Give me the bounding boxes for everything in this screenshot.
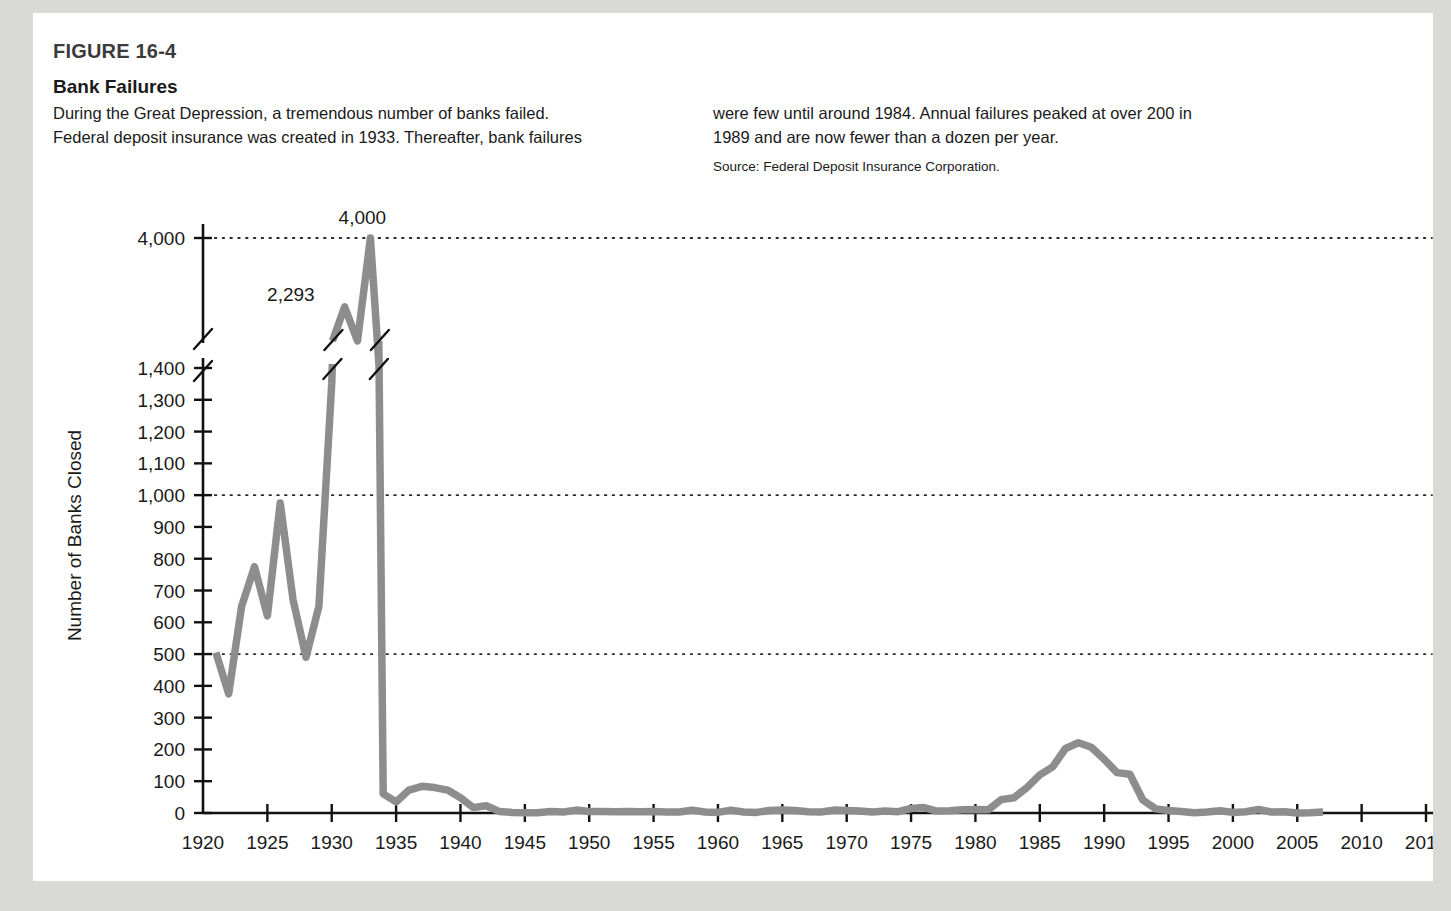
- y-axis-tick-label: 1,300: [137, 390, 185, 411]
- caption-column-right: were few until around 1984. Annual failu…: [713, 101, 1413, 176]
- figure-source: Source: Federal Deposit Insurance Corpor…: [713, 158, 1413, 176]
- figure-caption: During the Great Depression, a tremendou…: [53, 101, 1423, 176]
- figure-number: FIGURE 16-4: [53, 40, 1413, 63]
- x-axis-tick-label: 2010: [1340, 832, 1382, 853]
- y-axis-tick-label: 200: [153, 739, 185, 760]
- x-axis-tick-label: 1950: [568, 832, 610, 853]
- data-line: [216, 364, 333, 694]
- y-axis-tick-label: 4,000: [137, 228, 185, 249]
- caption-left-line-2: Federal deposit insurance was created in…: [53, 125, 713, 149]
- bank-failures-chart: 01002003004005006007008009001,0001,1001,…: [33, 198, 1433, 881]
- figure-panel: FIGURE 16-4 Bank Failures During the Gre…: [33, 13, 1433, 881]
- x-axis-tick-label: 1945: [504, 832, 546, 853]
- data-line: [379, 341, 1323, 813]
- x-axis-tick-label: 1970: [826, 832, 868, 853]
- x-axis-tick-label: 1965: [761, 832, 803, 853]
- y-axis-title: Number of Banks Closed: [64, 430, 85, 641]
- gridlines-group: [207, 238, 1432, 654]
- y-axis-tick-label: 500: [153, 644, 185, 665]
- y-axis-tick-label: 400: [153, 676, 185, 697]
- data-point-annotation: 4,000: [339, 207, 387, 228]
- x-axis-tick-label: 2015: [1405, 832, 1433, 853]
- x-axis-tick-label: 1925: [246, 832, 288, 853]
- x-axis-tick-label: 2000: [1212, 832, 1254, 853]
- figure-header: FIGURE 16-4 Bank Failures: [53, 40, 1413, 98]
- x-axis-tick-label: 1980: [954, 832, 996, 853]
- y-axis-tick-label: 900: [153, 517, 185, 538]
- y-axis-tick-label: 1,100: [137, 453, 185, 474]
- caption-right-line-2: 1989 and are now fewer than a dozen per …: [713, 125, 1413, 149]
- x-axis-tick-label: 1960: [697, 832, 739, 853]
- y-axis-tick-label: 1,000: [137, 485, 185, 506]
- x-axis-tick-label: 1955: [632, 832, 674, 853]
- y-axis-tick-label: 0: [174, 803, 185, 824]
- y-axis-tick-label: 600: [153, 612, 185, 633]
- chart-svg: 01002003004005006007008009001,0001,1001,…: [33, 198, 1433, 881]
- y-axis-tick-label: 100: [153, 771, 185, 792]
- y-axis-tick-label: 800: [153, 549, 185, 570]
- y-axis-tick-label: 700: [153, 581, 185, 602]
- x-axis-tick-label: 1975: [890, 832, 932, 853]
- x-axis-tick-label: 2005: [1276, 832, 1318, 853]
- caption-column-left: During the Great Depression, a tremendou…: [53, 101, 713, 176]
- y-axis-tick-label: 300: [153, 708, 185, 729]
- x-axis-tick-label: 1985: [1019, 832, 1061, 853]
- y-axis-tick-label: 1,200: [137, 422, 185, 443]
- y-axis-group: 01002003004005006007008009001,0001,1001,…: [137, 224, 212, 824]
- x-axis-tick-label: 1940: [439, 832, 481, 853]
- figure-title: Bank Failures: [53, 76, 1413, 98]
- data-point-annotation: 2,293: [267, 284, 315, 305]
- caption-left-line-1: During the Great Depression, a tremendou…: [53, 101, 713, 125]
- x-axis-tick-label: 1930: [311, 832, 353, 853]
- x-axis-tick-label: 1935: [375, 832, 417, 853]
- y-axis-tick-label: 1,400: [137, 358, 185, 379]
- x-axis-tick-label: 1995: [1147, 832, 1189, 853]
- data-line-group: [216, 238, 1323, 813]
- x-axis-tick-label: 1920: [182, 832, 224, 853]
- data-line: [333, 238, 379, 364]
- x-axis-tick-label: 1990: [1083, 832, 1125, 853]
- caption-right-line-1: were few until around 1984. Annual failu…: [713, 101, 1413, 125]
